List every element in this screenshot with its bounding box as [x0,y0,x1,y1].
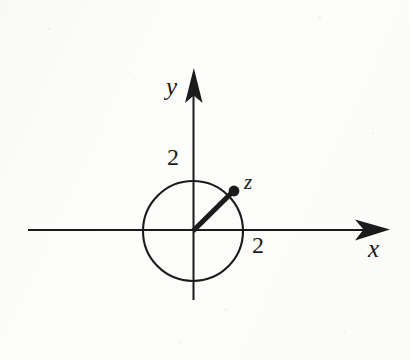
figure-container: y x z 2 2 [0,0,410,360]
x-axis-label: x [368,236,379,261]
y-axis-label: y [166,74,177,99]
y-axis-tick-label-2: 2 [167,145,179,169]
complex-plane-diagram [0,0,410,360]
point-z-marker [229,186,240,197]
x-axis-tick-label-2: 2 [252,233,264,257]
point-z-label: z [244,172,252,193]
radius-segment [193,192,233,232]
